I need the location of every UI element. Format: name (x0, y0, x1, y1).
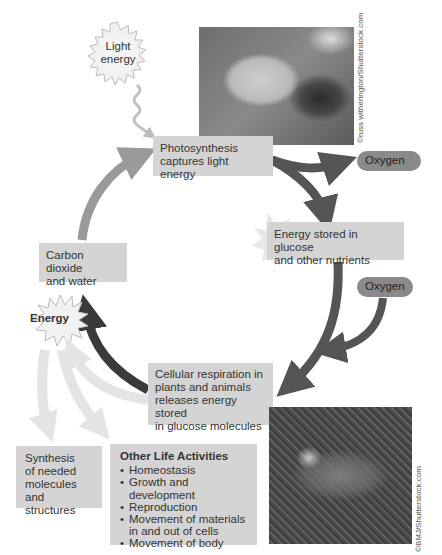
wolf-photo (269, 407, 412, 544)
photosynthesis-line1: Photosynthesis (160, 142, 266, 155)
wolf-photo-credit: ©BMJ/Shutterstock.com (414, 466, 423, 552)
leaf-photo-credit: ©russ witherington/Shutterstock.com (356, 13, 365, 143)
photosynthesis-box: Photosynthesis captures light energy (153, 136, 273, 176)
light-ray-arrow (134, 85, 151, 135)
photosynthesis-line2: captures light energy (160, 155, 266, 181)
oxygen-output-pill: Oxygen (357, 151, 421, 171)
respiration-line3: releases energy stored (155, 394, 266, 420)
leaf-photo (199, 27, 354, 145)
carbon-line2: and water (46, 275, 120, 288)
synthesis-box: Synthesis of needed molecules and struct… (16, 446, 102, 508)
other-life-activities-box: Other Life Activities Homeostasis Growth… (110, 444, 257, 545)
energy-stored-box: Energy stored in glucose and other nutri… (267, 222, 404, 260)
life-activity-item: Growth and development (120, 476, 250, 500)
energy-burst-label: Energy (30, 312, 69, 324)
other-life-title: Other Life Activities (120, 450, 250, 462)
cellular-respiration-box: Cellular respiration in plants and anima… (148, 363, 273, 425)
carbon-dioxide-water-box: Carbon dioxide and water (39, 243, 127, 282)
energy-stored-line2: and other nutrients (274, 254, 397, 267)
synthesis-line2: of needed (25, 465, 95, 478)
light-energy-label: Light energy (100, 40, 136, 66)
synthesis-line3: molecules (25, 478, 95, 491)
arrow-to-respiration (290, 262, 338, 385)
life-activity-item: Reproduction (120, 501, 250, 513)
energy-stored-line1: Energy stored in glucose (274, 228, 397, 254)
synthesis-line1: Synthesis (25, 452, 95, 465)
life-activity-item: Movement of body (120, 537, 250, 549)
arrow-co2-to-photosynthesis (82, 156, 140, 240)
light-energy-line2: energy (100, 53, 136, 66)
light-energy-line1: Light (100, 40, 136, 53)
life-activity-item: Movement of materials (120, 513, 250, 525)
life-activity-item-continued: in and out of cells (120, 525, 250, 537)
respiration-line4: in glucose molecules (155, 420, 266, 433)
carbon-line1: Carbon dioxide (46, 249, 120, 275)
oxygen-input-pill: Oxygen (357, 277, 413, 297)
arrow-energy-to-synthesis (42, 350, 48, 428)
synthesis-line4: and structures (25, 491, 95, 517)
respiration-line1: Cellular respiration in (155, 368, 266, 381)
respiration-line2: plants and animals (155, 381, 266, 394)
life-activity-item: Homeostasis (120, 464, 250, 476)
